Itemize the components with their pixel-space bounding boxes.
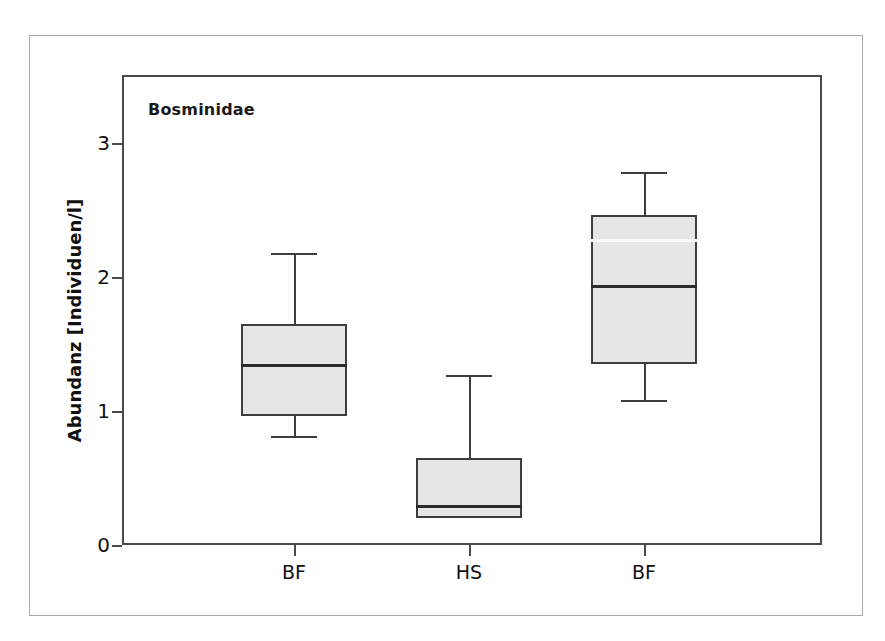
whisker-lower-cap xyxy=(621,400,667,402)
whisker-upper-cap xyxy=(621,172,667,174)
whisker-lower-stem xyxy=(644,364,646,400)
boxplot-figure: Bosminidae Abundanz [Individuen/l] 0123 … xyxy=(0,0,885,641)
box-iqr-rect[interactable] xyxy=(591,215,697,364)
whisker-upper-stem xyxy=(644,172,646,215)
box-median-line xyxy=(591,285,697,288)
box-inner-light-line xyxy=(591,239,697,242)
boxplot-box[interactable] xyxy=(0,0,885,641)
